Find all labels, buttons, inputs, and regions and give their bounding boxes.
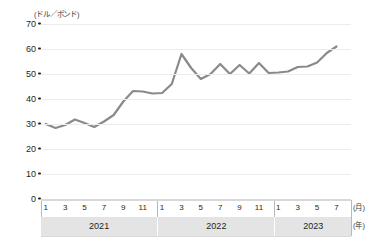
x-axis-month-tick-2021-7: 7 — [102, 204, 106, 212]
y-axis-tick-40: 40 — [23, 95, 41, 104]
y-axis-tick-30: 30 — [23, 120, 41, 129]
year-label: 2023 — [275, 222, 353, 231]
y-axis-unit-label: (ドル／ポンド) — [34, 8, 79, 19]
x-axis-month-tick-2022-9: 9 — [237, 204, 241, 212]
y-axis-tick-0: 0 — [23, 195, 41, 204]
x-axis-month-tick-2021-3: 3 — [63, 204, 67, 212]
month-panel-2023: 1357 — [274, 201, 352, 218]
x-axis-month-tick-2023-5: 5 — [315, 204, 319, 212]
series-line-svg — [41, 24, 351, 199]
series-polyline — [46, 47, 337, 129]
y-axis-tick-dot-icon — [38, 97, 41, 100]
year-band-2023: 2023 — [274, 217, 353, 236]
x-axis-month-row: 135791113579111357 — [41, 200, 351, 218]
x-axis-month-tick-2023-3: 3 — [295, 204, 299, 212]
y-axis-tick-label: 30 — [23, 120, 36, 129]
y-axis-tick-dot-icon — [38, 72, 41, 75]
y-axis-tick-label: 40 — [23, 95, 36, 104]
y-axis-tick-dot-icon — [38, 47, 41, 50]
price-line-chart: (ドル／ポンド) 706050403020100 135791113579111… — [0, 0, 377, 250]
x-axis-year-row: 202120222023 — [41, 217, 351, 236]
gridline-70 — [41, 24, 351, 25]
panel-separator — [157, 201, 158, 218]
x-axis-month-tick-2022-11: 11 — [255, 204, 263, 212]
y-axis-tick-dot-icon — [38, 122, 41, 125]
y-axis-tick-label: 60 — [23, 45, 36, 54]
y-axis-tick-50: 50 — [23, 70, 41, 79]
y-axis-tick-label: 10 — [23, 170, 36, 179]
y-axis-tick-dot-icon — [38, 22, 41, 25]
x-axis-month-tick-2022-7: 7 — [218, 204, 222, 212]
month-panel-2021: 1357911 — [41, 201, 157, 218]
gridline-50 — [41, 74, 351, 75]
year-label: 2022 — [158, 222, 274, 231]
x-axis-month-tick-2023-1: 1 — [276, 204, 280, 212]
y-axis-tick-60: 60 — [23, 45, 41, 54]
gridline-10 — [41, 174, 351, 175]
y-axis-tick-label: 70 — [23, 20, 36, 29]
x-axis-month-tick-2023-7: 7 — [334, 204, 338, 212]
bottom-axis-rule — [41, 236, 351, 237]
y-axis-tick-label: 50 — [23, 70, 36, 79]
x-axis-month-tick-2021-5: 5 — [82, 204, 86, 212]
y-axis-tick-dot-icon — [38, 147, 41, 150]
plot-area: 706050403020100 — [41, 24, 351, 199]
y-axis-tick-dot-icon — [38, 172, 41, 175]
month-panel-2022: 1357911 — [157, 201, 273, 218]
x-axis-month-tick-2022-5: 5 — [199, 204, 203, 212]
x-axis-month-tick-2022-3: 3 — [179, 204, 183, 212]
year-label: 2021 — [41, 222, 157, 231]
x-axis-year-unit-label: (年) — [353, 222, 365, 230]
year-band-2022: 2022 — [157, 217, 274, 236]
x-axis-month-unit-label: (月) — [353, 204, 365, 212]
x-axis-month-tick-2021-9: 9 — [121, 204, 125, 212]
gridline-40 — [41, 99, 351, 100]
gridline-60 — [41, 49, 351, 50]
y-axis-tick-label: 20 — [23, 145, 36, 154]
x-axis-month-tick-2021-11: 11 — [139, 204, 147, 212]
panel-separator — [41, 201, 42, 218]
y-axis-tick-label: 0 — [23, 195, 36, 204]
right-axis-rule — [351, 200, 352, 236]
x-axis-month-tick-2021-1: 1 — [44, 204, 48, 212]
gridline-30 — [41, 124, 351, 125]
panel-separator — [274, 201, 275, 218]
y-axis-tick-10: 10 — [23, 170, 41, 179]
y-axis-tick-20: 20 — [23, 145, 41, 154]
year-band-2021: 2021 — [41, 217, 157, 236]
y-axis-tick-70: 70 — [23, 20, 41, 29]
x-axis-month-tick-2022-1: 1 — [160, 204, 164, 212]
gridline-20 — [41, 149, 351, 150]
